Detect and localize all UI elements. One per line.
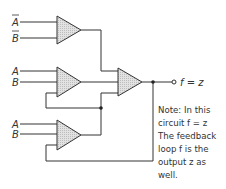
note-line: circuit f = z bbox=[158, 117, 226, 130]
output-label: f = z bbox=[180, 77, 204, 88]
label-top-b-bar: B bbox=[12, 33, 19, 44]
note-line: well. bbox=[158, 169, 226, 182]
label-mid-b: B bbox=[12, 77, 19, 88]
note-line: output z as bbox=[158, 156, 226, 169]
wire-mid-feedback bbox=[46, 93, 101, 108]
junction-dot-output bbox=[151, 80, 155, 84]
note-line: The feedback bbox=[158, 130, 226, 143]
note-line: Note: In this bbox=[158, 104, 226, 117]
label-bot-b: B bbox=[12, 129, 19, 140]
label-mid-a: A bbox=[11, 66, 19, 77]
wire-top-to-output-gate bbox=[81, 30, 118, 71]
gate-top bbox=[57, 16, 81, 44]
wire-bot-to-output-gate bbox=[81, 93, 118, 135]
junction-dot-mid-feedback bbox=[99, 106, 103, 110]
output-terminal bbox=[172, 80, 176, 84]
note-line: loop f is the bbox=[158, 143, 226, 156]
gate-middle bbox=[57, 67, 81, 97]
label-top-a-bar: A bbox=[11, 17, 19, 28]
note-text: Note: In this circuit f = z The feedback… bbox=[158, 104, 226, 182]
gate-output bbox=[118, 68, 142, 96]
gate-bottom bbox=[57, 120, 81, 150]
